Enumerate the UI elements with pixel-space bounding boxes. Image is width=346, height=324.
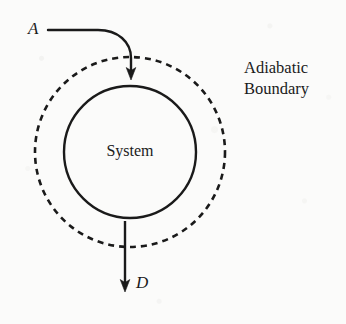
diagram-canvas [0, 0, 346, 324]
adiabatic-boundary-label-line1: Adiabatic [244, 57, 309, 78]
inflow-arrow-path [48, 30, 131, 72]
adiabatic-boundary-diagram: A D System Adiabatic Boundary [0, 0, 346, 324]
adiabatic-boundary-label: Adiabatic Boundary [244, 57, 309, 99]
adiabatic-boundary-label-line2: Boundary [244, 78, 309, 99]
outflow-label-d: D [136, 274, 148, 291]
inflow-label-a: A [28, 20, 38, 37]
system-label: System [0, 143, 260, 159]
